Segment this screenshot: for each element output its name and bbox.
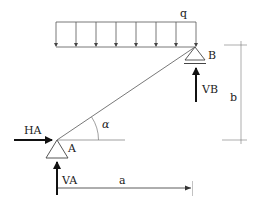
dimension-b: b xyxy=(222,41,247,144)
dimension-a-label: a xyxy=(119,174,126,187)
reaction-ha: HA xyxy=(14,124,52,140)
support-a-label: A xyxy=(67,142,77,155)
support-b-label: B xyxy=(208,49,216,62)
roller-support-icon xyxy=(185,47,205,60)
angle-alpha: α xyxy=(57,117,125,140)
load-label: q xyxy=(180,7,187,20)
inclined-beam xyxy=(57,47,195,140)
reaction-vb: VB xyxy=(196,68,218,102)
distributed-load: q xyxy=(56,7,196,47)
reaction-va: VA xyxy=(57,162,78,195)
dimension-b-label: b xyxy=(230,91,237,104)
reaction-vb-label: VB xyxy=(201,83,218,96)
pin-support-icon xyxy=(46,140,68,158)
reaction-ha-label: HA xyxy=(24,124,43,137)
dimension-a: a xyxy=(58,174,193,196)
reaction-va-label: VA xyxy=(61,174,78,187)
support-a: A xyxy=(46,140,77,158)
support-b: B xyxy=(184,47,216,64)
angle-arc-icon xyxy=(92,117,99,140)
angle-label: α xyxy=(102,118,110,131)
beam-diagram: q B VB A HA VA α a xyxy=(0,0,260,212)
